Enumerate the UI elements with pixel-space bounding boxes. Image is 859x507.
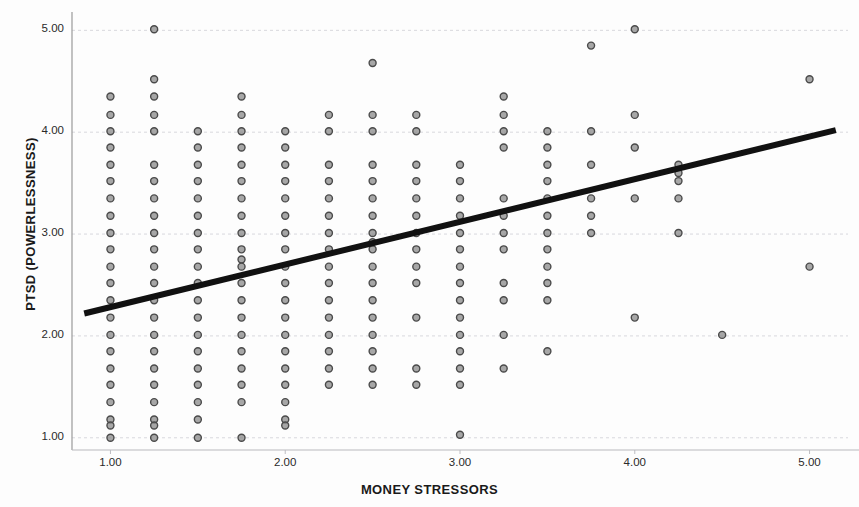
x-tick-label: 5.00 <box>780 456 840 468</box>
data-point <box>413 161 420 168</box>
data-point <box>107 178 114 185</box>
data-point <box>325 161 332 168</box>
data-point <box>151 246 158 253</box>
data-point <box>544 348 551 355</box>
data-point <box>588 128 595 135</box>
data-point <box>107 434 114 441</box>
data-point <box>457 297 464 304</box>
data-point <box>107 195 114 202</box>
data-point <box>238 434 245 441</box>
data-point <box>588 42 595 49</box>
data-point <box>151 195 158 202</box>
data-point <box>107 399 114 406</box>
data-point <box>325 365 332 372</box>
data-point <box>151 26 158 33</box>
data-point <box>457 348 464 355</box>
x-tick-label: 1.00 <box>80 456 140 468</box>
data-point <box>282 331 289 338</box>
data-point <box>107 263 114 270</box>
data-point <box>194 212 201 219</box>
data-point <box>457 263 464 270</box>
data-point <box>325 331 332 338</box>
data-point <box>238 111 245 118</box>
data-point <box>369 297 376 304</box>
data-point <box>457 381 464 388</box>
data-point <box>238 331 245 338</box>
data-point <box>282 161 289 168</box>
data-point <box>194 348 201 355</box>
data-point <box>151 381 158 388</box>
data-point <box>238 144 245 151</box>
data-point <box>325 195 332 202</box>
data-point <box>238 230 245 237</box>
x-tick-label: 4.00 <box>605 456 665 468</box>
data-point <box>588 195 595 202</box>
data-point <box>238 93 245 100</box>
data-point <box>238 399 245 406</box>
data-point <box>151 178 158 185</box>
y-axis-title-container: PTSD (POWERLESSNESS) <box>21 14 39 434</box>
data-point <box>194 297 201 304</box>
data-point <box>588 212 595 219</box>
data-point <box>282 422 289 429</box>
data-point <box>282 128 289 135</box>
data-point <box>107 111 114 118</box>
data-point <box>369 365 376 372</box>
data-point <box>369 348 376 355</box>
data-point <box>325 348 332 355</box>
data-point <box>544 279 551 286</box>
data-point <box>194 128 201 135</box>
data-point <box>325 297 332 304</box>
data-point <box>500 331 507 338</box>
data-point <box>675 195 682 202</box>
data-point <box>457 314 464 321</box>
data-point <box>151 230 158 237</box>
data-point <box>500 246 507 253</box>
data-point <box>500 279 507 286</box>
data-point <box>500 128 507 135</box>
data-point <box>238 381 245 388</box>
data-point <box>544 297 551 304</box>
data-point <box>238 161 245 168</box>
data-point <box>151 111 158 118</box>
data-point <box>107 212 114 219</box>
data-point <box>238 212 245 219</box>
plot-border <box>72 12 859 450</box>
data-point <box>107 365 114 372</box>
data-point <box>107 331 114 338</box>
data-point <box>325 279 332 286</box>
data-point <box>457 230 464 237</box>
data-point <box>194 161 201 168</box>
data-point <box>238 279 245 286</box>
data-point <box>282 365 289 372</box>
data-point <box>369 212 376 219</box>
data-point <box>457 161 464 168</box>
data-point <box>457 279 464 286</box>
data-point <box>282 297 289 304</box>
data-point <box>238 263 245 270</box>
data-point <box>282 381 289 388</box>
data-point <box>194 434 201 441</box>
data-point <box>194 314 201 321</box>
data-point <box>631 195 638 202</box>
data-point <box>151 314 158 321</box>
data-point <box>369 59 376 66</box>
data-point <box>151 399 158 406</box>
data-point <box>151 212 158 219</box>
data-point <box>500 297 507 304</box>
data-point <box>107 422 114 429</box>
data-point <box>369 195 376 202</box>
x-tick-label: 2.00 <box>255 456 315 468</box>
data-point <box>369 314 376 321</box>
data-point <box>151 263 158 270</box>
data-point <box>107 314 114 321</box>
data-point <box>107 230 114 237</box>
data-point <box>369 128 376 135</box>
data-point <box>194 365 201 372</box>
data-point <box>194 178 201 185</box>
data-point <box>282 195 289 202</box>
data-point <box>194 381 201 388</box>
data-point <box>544 230 551 237</box>
data-point <box>282 230 289 237</box>
data-point <box>325 381 332 388</box>
